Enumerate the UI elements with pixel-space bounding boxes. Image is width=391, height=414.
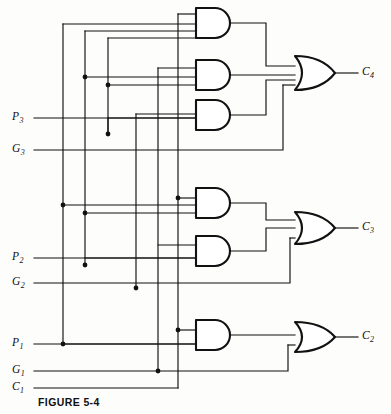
- input-label-p3: P3: [12, 111, 23, 123]
- input-label-p2-sub: 2: [19, 256, 23, 265]
- junction-dot: [106, 83, 111, 88]
- and-gate-5[interactable]: [196, 236, 230, 266]
- wire-g1-horizontal: [34, 345, 288, 371]
- junction-dot: [61, 342, 66, 347]
- input-label-g2-sub: 2: [21, 281, 25, 290]
- input-label-p1: P1: [12, 337, 23, 349]
- and-gate-6-input-wires: [63, 330, 196, 344]
- input-label-p1-sub: 1: [19, 342, 23, 351]
- input-label-g2: G2: [12, 276, 25, 288]
- wire-a1-out: [230, 23, 295, 66]
- input-wires: [34, 85, 290, 388]
- circuit-diagram: [0, 0, 391, 414]
- vertical-bus-lines: [63, 14, 178, 388]
- output-label-c4: C4: [362, 66, 374, 78]
- input-label-p2: P2: [12, 251, 23, 263]
- and-gate-1-input-wires: [63, 14, 196, 38]
- or-gate-c4[interactable]: [295, 56, 335, 90]
- junction-dot: [61, 203, 66, 208]
- and-gate-1[interactable]: [196, 8, 230, 38]
- input-label-g1-base: G: [12, 363, 20, 375]
- junction-dot: [83, 211, 88, 216]
- and-gate-2[interactable]: [196, 60, 230, 90]
- figure-caption: FIGURE 5-4: [38, 396, 100, 408]
- input-label-p3-sub: 3: [19, 116, 23, 125]
- or-gate-c2[interactable]: [295, 322, 335, 352]
- and-gates: [196, 8, 230, 350]
- and-gate-5-input-wires: [85, 245, 196, 258]
- input-label-g1-sub: 1: [21, 369, 25, 378]
- input-label-g1: G1: [12, 364, 25, 376]
- and-gate-4[interactable]: [196, 188, 230, 218]
- output-label-c2: C2: [362, 330, 374, 342]
- or-gates: [295, 56, 335, 352]
- input-label-c1: C1: [12, 381, 24, 393]
- junction-dot: [83, 75, 88, 80]
- output-label-c3: C3: [362, 221, 374, 233]
- wire-a4-out: [230, 203, 295, 220]
- figure-carry-lookahead: P3 G3 P2 G2 P1 G1 C1 C4 C3 C2 FIGURE 5-4: [0, 0, 391, 414]
- output-label-c3-base: C: [362, 220, 370, 232]
- output-label-c2-base: C: [362, 329, 370, 341]
- and-gate-3-input-wires: [108, 114, 196, 118]
- input-label-g3-base: G: [12, 142, 20, 154]
- output-wires: [335, 73, 358, 337]
- and-gate-3[interactable]: [196, 100, 230, 130]
- junction-dot: [83, 263, 88, 268]
- output-label-c4-base: C: [362, 65, 370, 77]
- input-label-g2-base: G: [12, 275, 20, 287]
- and-gate-2-input-wires: [85, 68, 196, 85]
- input-label-c1-sub: 1: [20, 386, 24, 395]
- output-label-c2-sub: 2: [370, 335, 374, 344]
- and-gate-6[interactable]: [196, 320, 230, 350]
- input-label-g3: G3: [12, 143, 25, 155]
- wire-a5-out: [230, 228, 295, 251]
- output-label-c4-sub: 4: [370, 71, 374, 80]
- input-label-c1-base: C: [12, 380, 20, 392]
- junction-dot: [156, 369, 161, 374]
- junction-dot: [134, 286, 139, 291]
- and-to-or-wires: [230, 23, 295, 345]
- or-gate-c3[interactable]: [295, 212, 335, 244]
- and-gate-4-input-wires: [63, 198, 196, 213]
- junction-dot: [176, 328, 181, 333]
- junction-dot: [176, 196, 181, 201]
- input-label-g3-sub: 3: [21, 148, 25, 157]
- output-label-c3-sub: 3: [370, 226, 374, 235]
- junction-dots: [61, 75, 181, 374]
